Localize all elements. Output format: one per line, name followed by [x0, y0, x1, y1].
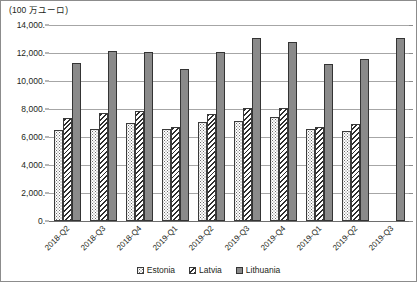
- bar-group: [121, 25, 157, 221]
- x-axis-tick-label-text: 2018-Q2: [43, 224, 71, 252]
- bar-latvia-2019-Q4: [279, 108, 288, 221]
- bar-group: [157, 25, 193, 221]
- x-label-cell: 2019-Q3: [373, 222, 409, 266]
- x-axis-labels: 2018-Q22018-Q32018-Q42019-Q12019-Q22019-…: [49, 222, 409, 266]
- bar-lithuania-2019-Q1: [180, 69, 189, 221]
- bar-lithuania-2018-Q2: [72, 63, 81, 221]
- legend-label: Latvia: [199, 265, 222, 275]
- bar-group: [193, 25, 229, 221]
- bar-lithuania-2019-Q2: [216, 52, 225, 221]
- bar-latvia-2018-Q4: [135, 111, 144, 221]
- legend-swatch-icon: [236, 267, 243, 274]
- axis-unit-title: (100 万ユーロ): [9, 5, 68, 16]
- bar-group: [265, 25, 301, 221]
- y-tick-label: 12,000.: [17, 48, 45, 58]
- bar-latvia-2018-Q2: [63, 118, 72, 221]
- bar-latvia-2019-Q3: [243, 108, 252, 221]
- bar-lithuania-2019-Q3: [396, 38, 405, 221]
- bar-group: [49, 25, 85, 221]
- y-tick-mark-right: [409, 25, 413, 26]
- bar-latvia-2019-Q2: [207, 114, 216, 221]
- bar-group: [229, 25, 265, 221]
- legend-swatch-icon: [137, 267, 144, 274]
- bar-lithuania-2019-Q3: [252, 38, 261, 221]
- y-tick-mark-right: [409, 165, 413, 166]
- bar-latvia-2019-Q1: [171, 127, 180, 222]
- y-tick-mark-right: [409, 193, 413, 194]
- legend-item-lithuania[interactable]: Lithuania: [236, 265, 281, 275]
- bar-lithuania-2019-Q1: [324, 64, 333, 222]
- y-tick-mark-right: [409, 53, 413, 54]
- y-tick-mark-right: [409, 221, 413, 222]
- chart-legend: EstoniaLatviaLithuania: [1, 265, 416, 275]
- y-tick-label: 8,000.: [21, 104, 45, 114]
- bar-group: [373, 25, 409, 221]
- bar-lithuania-2019-Q4: [288, 42, 297, 221]
- legend-label: Estonia: [147, 265, 175, 275]
- y-tick-label: 0.: [38, 216, 45, 226]
- plot-area: 14,000.12,000.10,000.8,000.6,000.4,000.2…: [49, 25, 409, 221]
- legend-label: Lithuania: [246, 265, 281, 275]
- y-tick-label: 6,000.: [21, 132, 45, 142]
- bar-lithuania-2018-Q3: [108, 51, 117, 221]
- y-tick-label: 14,000.: [17, 20, 45, 30]
- y-tick-mark-right: [409, 81, 413, 82]
- bar-estonia-2018-Q2: [54, 130, 63, 221]
- legend-item-estonia[interactable]: Estonia: [137, 265, 175, 275]
- y-tick-label: 2,000.: [21, 188, 45, 198]
- bar-group: [337, 25, 373, 221]
- bar-group: [301, 25, 337, 221]
- legend-swatch-icon: [189, 267, 196, 274]
- bar-latvia-2019-Q2: [351, 124, 360, 221]
- bar-latvia-2019-Q1: [315, 127, 324, 222]
- bar-latvia-2018-Q3: [99, 113, 108, 221]
- bar-lithuania-2019-Q2: [360, 59, 369, 221]
- bar-group: [85, 25, 121, 221]
- y-tick-label: 10,000.: [17, 76, 45, 86]
- bar-chart: (100 万ユーロ) 14,000.12,000.10,000.8,000.6,…: [0, 0, 417, 282]
- bars-layer: [49, 25, 409, 221]
- y-tick-mark-right: [409, 137, 413, 138]
- y-tick-mark-right: [409, 109, 413, 110]
- legend-item-latvia[interactable]: Latvia: [189, 265, 222, 275]
- y-tick-label: 4,000.: [21, 160, 45, 170]
- bar-lithuania-2018-Q4: [144, 52, 153, 221]
